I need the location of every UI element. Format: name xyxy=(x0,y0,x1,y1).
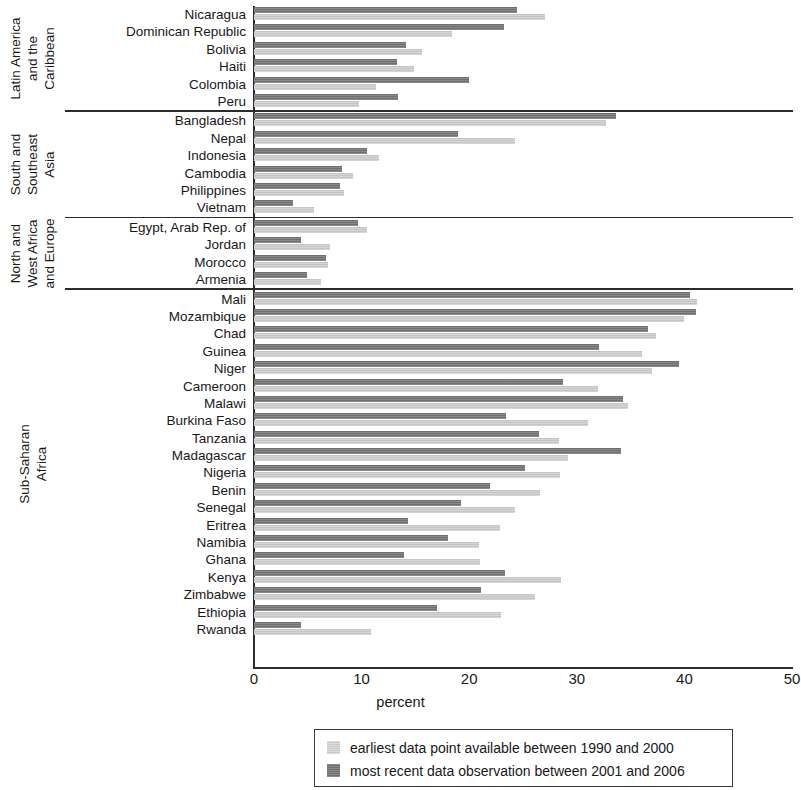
bar-recent xyxy=(254,326,648,332)
bar-recent xyxy=(254,77,469,83)
bar-row xyxy=(254,412,792,429)
bar-row xyxy=(254,569,792,586)
category-label: Bolivia xyxy=(3,42,253,57)
bar-row xyxy=(254,621,792,638)
bar-earliest xyxy=(254,49,422,55)
bar-row xyxy=(254,76,792,93)
bar-row xyxy=(254,586,792,603)
bar-earliest xyxy=(254,594,535,600)
x-tick-50: 50 xyxy=(784,670,801,687)
bar-recent xyxy=(254,309,696,315)
bar-recent xyxy=(254,483,490,489)
category-label: Indonesia xyxy=(3,148,253,163)
bar-earliest xyxy=(254,244,330,250)
bar-row xyxy=(254,517,792,534)
bar-recent xyxy=(254,292,690,298)
bar-earliest xyxy=(254,455,568,461)
bar-recent xyxy=(254,396,623,402)
bar-recent xyxy=(254,113,616,119)
bar-recent xyxy=(254,587,481,593)
bar-row xyxy=(254,343,792,360)
bar-recent xyxy=(254,272,307,278)
bar-earliest xyxy=(254,438,559,444)
bar-earliest xyxy=(254,472,560,478)
category-label: Ethiopia xyxy=(3,605,253,620)
bar-row xyxy=(254,271,792,288)
x-tick-30: 30 xyxy=(568,670,585,687)
bar-row xyxy=(254,447,792,464)
category-label-column: NicaraguaDominican RepublicBoliviaHaitiC… xyxy=(0,6,253,668)
bar-earliest xyxy=(254,333,656,339)
bar-recent xyxy=(254,344,599,350)
bar-recent xyxy=(254,24,504,30)
bar-row xyxy=(254,551,792,568)
category-label: Eritrea xyxy=(3,518,253,533)
bar-row xyxy=(254,499,792,516)
category-label: Peru xyxy=(3,94,253,109)
category-label: Kenya xyxy=(3,570,253,585)
bar-row xyxy=(254,464,792,481)
bar-recent xyxy=(254,200,293,206)
bar-row xyxy=(254,308,792,325)
bar-recent xyxy=(254,552,404,558)
bar-earliest xyxy=(254,525,500,531)
bar-row xyxy=(254,182,792,199)
bar-recent xyxy=(254,237,301,243)
bar-row xyxy=(254,41,792,58)
bar-earliest xyxy=(254,559,480,565)
bar-earliest xyxy=(254,316,684,322)
bar-recent xyxy=(254,166,342,172)
category-label: Namibia xyxy=(3,535,253,550)
category-label: Guinea xyxy=(3,344,253,359)
legend-item-earliest: earliest data point available between 19… xyxy=(327,736,732,759)
bar-row xyxy=(254,378,792,395)
bar-earliest xyxy=(254,403,628,409)
bar-earliest xyxy=(254,629,371,635)
x-tick-40: 40 xyxy=(676,670,693,687)
bar-recent xyxy=(254,361,679,367)
legend-label-recent: most recent data observation between 200… xyxy=(350,763,685,779)
bar-earliest xyxy=(254,207,314,213)
bar-row xyxy=(254,130,792,147)
bar-row xyxy=(254,604,792,621)
category-label: Morocco xyxy=(3,255,253,270)
category-label: Mozambique xyxy=(3,309,253,324)
bar-earliest xyxy=(254,84,376,90)
bar-recent xyxy=(254,220,358,226)
category-label: Ghana xyxy=(3,552,253,567)
category-label: Nicaragua xyxy=(3,7,253,22)
legend-box: earliest data point available between 19… xyxy=(314,729,733,787)
bar-earliest xyxy=(254,420,588,426)
category-label: Niger xyxy=(3,361,253,376)
bar-earliest xyxy=(254,14,545,20)
bar-row xyxy=(254,395,792,412)
bar-earliest xyxy=(254,101,359,107)
bar-earliest xyxy=(254,279,321,285)
bar-earliest xyxy=(254,507,515,513)
bar-earliest xyxy=(254,386,598,392)
bar-earliest xyxy=(254,490,540,496)
category-label: Cambodia xyxy=(3,166,253,181)
bar-recent xyxy=(254,622,301,628)
category-label: Nigeria xyxy=(3,465,253,480)
category-label: Benin xyxy=(3,483,253,498)
category-label: Bangladesh xyxy=(3,113,253,128)
bar-row xyxy=(254,93,792,110)
bar-row xyxy=(254,6,792,23)
category-label: Colombia xyxy=(3,77,253,92)
category-label: Dominican Republic xyxy=(3,24,253,39)
bar-row xyxy=(254,482,792,499)
bar-earliest xyxy=(254,227,367,233)
bar-recent xyxy=(254,59,397,65)
bar-row xyxy=(254,219,792,236)
bar-earliest xyxy=(254,66,414,72)
bar-row xyxy=(254,430,792,447)
figure-underweight-children-bar-chart: Latin Americaand theCaribbeanSouth andSo… xyxy=(0,0,801,790)
x-tick-0: 0 xyxy=(250,670,258,687)
category-label: Chad xyxy=(3,326,253,341)
bar-row xyxy=(254,236,792,253)
category-label: Malawi xyxy=(3,396,253,411)
bar-recent xyxy=(254,183,340,189)
x-axis-title: percent xyxy=(0,694,801,710)
bar-row xyxy=(254,534,792,551)
